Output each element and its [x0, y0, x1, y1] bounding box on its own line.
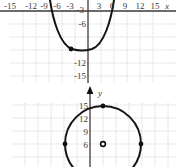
circle-grid-vertical	[25, 103, 168, 167]
circle-ytick-1: 12	[79, 114, 88, 124]
circle-ytick-0: 15	[79, 101, 89, 111]
parabola-grid-horizontal	[10, 11, 176, 76]
parabola-xtick-1: -12	[25, 1, 37, 11]
parabola-xtick-9: 15	[151, 1, 161, 11]
parabola-xtick-0: -15	[4, 1, 16, 11]
parabola-chart-svg: -15 -12 -9 -6 -3 3 6 9 12 15 -3 -6 -12 -…	[0, 0, 176, 83]
circle-grid-horizontal	[12, 105, 176, 157]
circle-ytick-3: 6	[84, 140, 89, 150]
circle-chart-svg: 15 12 9 6 y	[0, 83, 176, 167]
parabola-xtick-4: -3	[66, 1, 74, 11]
circle-ytick-2: 9	[84, 127, 89, 137]
figure-page: -15 -12 -9 -6 -3 3 6 9 12 15 -3 -6 -12 -…	[0, 0, 176, 167]
parabola-ytick-1: -6	[79, 19, 87, 29]
circle-y-tick-labels: 15 12 9 6	[79, 101, 89, 150]
circle-left-point	[63, 142, 68, 147]
parabola-xtick-3: -6	[53, 1, 61, 11]
parabola-figure: -15 -12 -9 -6 -3 3 6 9 12 15 -3 -6 -12 -…	[0, 0, 176, 83]
parabola-xtick-8: 12	[136, 1, 145, 11]
circle-right-point	[139, 142, 144, 147]
parabola-xtick-2: -9	[40, 1, 48, 11]
circle-top-point	[101, 104, 106, 109]
parabola-xtick-7: 9	[123, 1, 128, 11]
parabola-ytick-3: -15	[74, 71, 86, 81]
parabola-xtick-5: 3	[97, 1, 102, 11]
parabola-vertex-point	[69, 47, 74, 52]
circle-figure: 15 12 9 6 y	[0, 83, 176, 167]
parabola-xtick-6: 6	[110, 1, 115, 11]
parabola-ytick-0: -3	[77, 5, 85, 15]
circle-y-axis-arrow-icon	[87, 86, 94, 94]
parabola-x-axis-label: x	[164, 1, 169, 11]
circle-y-axis-label: y	[97, 88, 102, 98]
parabola-ytick-2: -12	[74, 58, 86, 68]
parabola-y-tick-labels: -3 -6 -12 -15	[74, 5, 86, 81]
circle-center-point	[101, 142, 106, 147]
